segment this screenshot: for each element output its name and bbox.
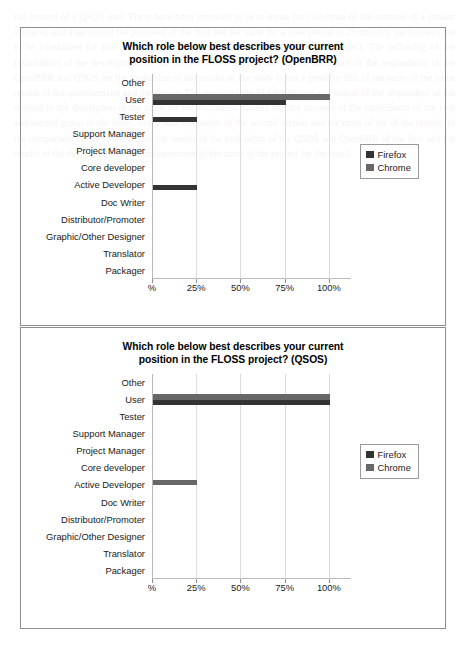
chart-title-line-2: position in the FLOSS project? (QSOS) (21, 353, 445, 366)
bar-row (153, 91, 351, 108)
bar-row (153, 194, 351, 211)
bar-row (153, 494, 351, 511)
bar-row (153, 374, 351, 391)
category-label: Graphic/Other Designer (21, 228, 151, 245)
bar-row (153, 228, 351, 245)
bar-row (153, 511, 351, 528)
x-tick-label: 25% (187, 582, 206, 593)
bar-row (153, 262, 351, 279)
bar-firefox (153, 400, 330, 405)
bar-chrome (153, 480, 197, 485)
x-tick-label: 50% (231, 582, 250, 593)
category-axis-openbrr: OtherUserTesterSupport ManagerProject Ma… (21, 74, 151, 279)
category-label: Support Manager (21, 125, 151, 142)
category-label: Distributor/Promoter (21, 511, 151, 528)
category-label: Core developer (21, 159, 151, 176)
plot-wrapper-openbrr: OtherUserTesterSupport ManagerProject Ma… (21, 74, 445, 304)
figure-frame: Which role below best describes your cur… (20, 27, 448, 630)
bar-row (153, 528, 351, 545)
x-tick-label: 100% (317, 582, 341, 593)
category-label: Project Manager (21, 142, 151, 159)
bar-row (153, 74, 351, 91)
chart-title-openbrr: Which role below best describes your cur… (21, 28, 445, 66)
legend-item: Firefox (366, 148, 411, 161)
bar-row (153, 562, 351, 579)
legend-item: Firefox (366, 448, 411, 461)
legend-openbrr: FirefoxChrome (360, 144, 419, 179)
bar-row (153, 459, 351, 476)
chart-panel-openbrr: Which role below best describes your cur… (20, 27, 446, 326)
bar-row (153, 245, 351, 262)
category-label: Active Developer (21, 176, 151, 193)
bar-row (153, 125, 351, 142)
bar-row (153, 142, 351, 159)
chart-title-line-1: Which role below best describes your cur… (21, 40, 445, 53)
bar-row (153, 108, 351, 125)
x-tick-label: % (148, 282, 156, 293)
category-label: Graphic/Other Designer (21, 528, 151, 545)
category-label: Doc Writer (21, 494, 151, 511)
x-tick-label: 50% (231, 282, 250, 293)
bar-row (153, 425, 351, 442)
legend-swatch-icon (366, 151, 374, 159)
legend-item: Chrome (366, 161, 411, 174)
category-label: Translator (21, 245, 151, 262)
category-label: Doc Writer (21, 194, 151, 211)
plot-area-qsos (152, 374, 351, 579)
category-label: User (21, 391, 151, 408)
x-tick-label: % (148, 582, 156, 593)
bar-firefox (153, 185, 197, 190)
x-tick-label: 100% (317, 282, 341, 293)
category-label: Packager (21, 562, 151, 579)
legend-label: Chrome (378, 161, 411, 174)
category-label: Tester (21, 408, 151, 425)
legend-label: Firefox (378, 148, 407, 161)
bar-row (153, 159, 351, 176)
x-tick-label: 75% (275, 582, 294, 593)
legend-label: Chrome (378, 461, 411, 474)
category-axis-qsos: OtherUserTesterSupport ManagerProject Ma… (21, 374, 151, 579)
category-label: Distributor/Promoter (21, 211, 151, 228)
category-label: Project Manager (21, 442, 151, 459)
plot-area-openbrr (152, 74, 351, 279)
category-label: Active Developer (21, 476, 151, 493)
legend-label: Firefox (378, 448, 407, 461)
bar-row (153, 211, 351, 228)
bar-firefox (153, 117, 197, 122)
category-label: Packager (21, 262, 151, 279)
bar-row (153, 176, 351, 193)
bar-row (153, 391, 351, 408)
chart-title-line-2: position in the FLOSS project? (OpenBRR) (21, 53, 445, 66)
x-tick-label: 25% (187, 282, 206, 293)
bar-firefox (153, 100, 286, 105)
legend-swatch-icon (366, 464, 374, 472)
legend-swatch-icon (366, 451, 374, 459)
x-axis-openbrr: %25%50%75%100% (152, 282, 351, 296)
category-label: Other (21, 74, 151, 91)
x-axis-qsos: %25%50%75%100% (152, 582, 351, 596)
legend-swatch-icon (366, 164, 374, 172)
chart-title-line-1: Which role below best describes your cur… (21, 340, 445, 353)
bar-row (153, 545, 351, 562)
legend-item: Chrome (366, 461, 411, 474)
category-label: User (21, 91, 151, 108)
legend-qsos: FirefoxChrome (360, 444, 419, 479)
x-tick-label: 75% (275, 282, 294, 293)
bar-row (153, 408, 351, 425)
chart-panel-qsos: Which role below best describes your cur… (20, 327, 446, 629)
chart-title-qsos: Which role below best describes your cur… (21, 328, 445, 366)
category-label: Translator (21, 545, 151, 562)
bar-row (153, 442, 351, 459)
bar-row (153, 476, 351, 493)
category-label: Other (21, 374, 151, 391)
category-label: Core developer (21, 459, 151, 476)
category-label: Support Manager (21, 425, 151, 442)
plot-wrapper-qsos: OtherUserTesterSupport ManagerProject Ma… (21, 374, 445, 604)
category-label: Tester (21, 108, 151, 125)
